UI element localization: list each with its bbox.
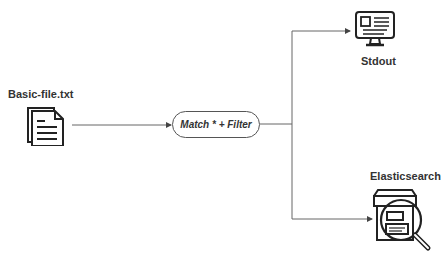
monitor-icon <box>354 10 396 50</box>
elasticsearch-label: Elasticsearch <box>370 170 441 182</box>
source-label: Basic-file.txt <box>8 88 73 100</box>
processor-node: Match * + Filter <box>172 111 260 138</box>
processor-label: Match * + Filter <box>180 119 251 130</box>
documents-icon <box>26 106 68 146</box>
stdout-label: Stdout <box>361 55 396 67</box>
box-magnifier-icon <box>372 188 438 254</box>
